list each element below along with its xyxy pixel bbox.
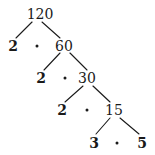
edge-15-5 [120, 118, 139, 134]
node-prime-3: 3 [89, 136, 99, 150]
node-30: 30 [78, 71, 96, 85]
edge-60-2 [44, 53, 60, 70]
edge-30-2 [65, 86, 83, 102]
factor-tree-diagram: 120 2 60 2 30 2 15 3 5 [0, 0, 155, 155]
multiplication-dot-level3 [86, 109, 89, 112]
edge-15-3 [96, 118, 110, 134]
edge-120-60 [42, 22, 60, 38]
edge-60-30 [70, 53, 87, 70]
edge-120-2 [16, 22, 32, 38]
edge-30-15 [93, 86, 110, 102]
multiplication-dot-level2 [64, 77, 67, 80]
multiplication-dot-level1 [36, 45, 39, 48]
node-prime-2-level2: 2 [36, 71, 46, 85]
node-prime-2-level1: 2 [8, 39, 18, 53]
node-60: 60 [55, 39, 73, 53]
node-15: 15 [105, 103, 123, 117]
node-prime-5: 5 [137, 136, 147, 150]
node-120: 120 [27, 7, 54, 21]
node-prime-2-level3: 2 [57, 103, 67, 117]
multiplication-dot-level4 [116, 142, 119, 145]
